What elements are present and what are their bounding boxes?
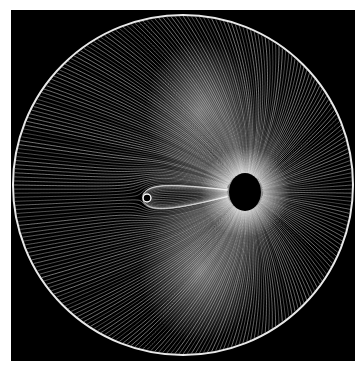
field-illustration [0, 0, 362, 368]
small-ring-source [143, 194, 151, 202]
flow-field [14, 16, 352, 354]
central-sink-hole [229, 173, 261, 211]
